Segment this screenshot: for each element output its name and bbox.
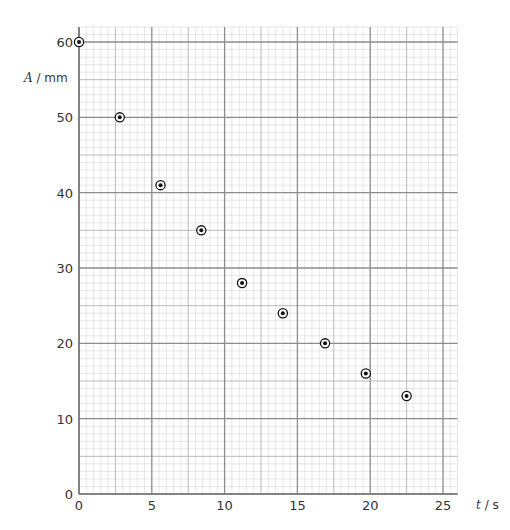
amplitude-time-graph: 0510152025 0102030405060 A / mm t / s bbox=[0, 0, 510, 530]
x-tick-label: 20 bbox=[362, 498, 379, 513]
x-tick-label: 0 bbox=[75, 498, 83, 513]
y-tick-label: 20 bbox=[56, 336, 73, 351]
data-points bbox=[74, 37, 411, 400]
y-tick-label: 10 bbox=[56, 412, 73, 427]
data-point-marker bbox=[278, 309, 287, 318]
x-axis-label: t / s bbox=[476, 498, 499, 512]
data-point-marker bbox=[361, 369, 370, 378]
y-tick-label: 0 bbox=[65, 487, 73, 502]
x-tick-label: 5 bbox=[148, 498, 156, 513]
y-tick-labels: 0102030405060 bbox=[56, 35, 73, 502]
y-tick-label: 40 bbox=[56, 186, 73, 201]
data-point-marker bbox=[320, 339, 329, 348]
y-tick-label: 60 bbox=[56, 35, 73, 50]
data-point-marker bbox=[197, 226, 206, 235]
y-axis-label: A / mm bbox=[23, 71, 68, 85]
y-tick-label: 50 bbox=[56, 110, 73, 125]
minor-grid bbox=[79, 27, 458, 494]
x-tick-label: 10 bbox=[216, 498, 233, 513]
data-point-marker bbox=[115, 113, 124, 122]
x-tick-labels: 0510152025 bbox=[75, 498, 451, 513]
x-tick-label: 25 bbox=[435, 498, 452, 513]
x-tick-label: 15 bbox=[289, 498, 306, 513]
data-point-marker bbox=[74, 37, 83, 46]
y-tick-label: 30 bbox=[56, 261, 73, 276]
data-point-marker bbox=[402, 391, 411, 400]
data-point-marker bbox=[237, 278, 246, 287]
data-point-marker bbox=[156, 181, 165, 190]
